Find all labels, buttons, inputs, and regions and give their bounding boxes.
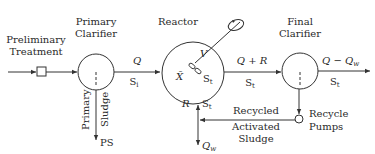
recycle-pumps-label-2: Pumps xyxy=(309,121,343,132)
recycle-pumps: Recycle Pumps xyxy=(295,108,348,132)
preliminary-label-1: Preliminary xyxy=(6,34,66,45)
final-clarifier: Final Clarifier Q − Qw St xyxy=(279,16,370,114)
stream-q-label: Q xyxy=(133,55,141,66)
reactor-circle xyxy=(162,42,224,104)
primary-clarifier-label-1: Primary xyxy=(76,16,117,27)
recycle-flow-label: R xyxy=(181,98,190,109)
reactor: Reactor V X̄ St xyxy=(158,16,245,104)
primary-clarifier: Primary Clarifier Primary Sludge PS xyxy=(75,16,117,148)
preliminary-label-2: Treatment xyxy=(9,46,62,57)
effluent-conc-label: St xyxy=(330,76,340,89)
primary-sludge-label-1: Primary xyxy=(80,89,91,130)
waste-flow-label: Qw xyxy=(202,140,216,153)
recycle-pumps-label-1: Recycle xyxy=(309,108,348,119)
ras-label-2: Activated xyxy=(231,121,281,132)
stream-si-label: Si xyxy=(129,76,139,89)
primary-sludge-label-2: Sludge xyxy=(99,92,110,127)
final-clarifier-label-2: Clarifier xyxy=(279,28,321,39)
ras-label-3: Sludge xyxy=(238,133,273,144)
effluent-flow-label: Q − Qw xyxy=(322,55,359,68)
process-flow-diagram: Preliminary Treatment Primary Clarifier … xyxy=(0,0,375,154)
preliminary-treatment: Preliminary Treatment xyxy=(6,34,77,76)
final-clarifier-label-1: Final xyxy=(287,16,313,27)
stream-q-plus-r-label: Q + R xyxy=(237,55,268,66)
reactor-biomass-label: X̄ xyxy=(175,71,184,82)
preliminary-box xyxy=(37,67,46,76)
stream-st-label: St xyxy=(245,77,255,90)
ps-label: PS xyxy=(100,137,114,148)
ras-label-1: Recycled xyxy=(233,105,279,116)
reactor-label: Reactor xyxy=(158,16,198,27)
primary-clarifier-label-2: Clarifier xyxy=(75,28,117,39)
recycle-conc-label: St xyxy=(202,98,212,111)
pump-icon xyxy=(295,115,303,123)
